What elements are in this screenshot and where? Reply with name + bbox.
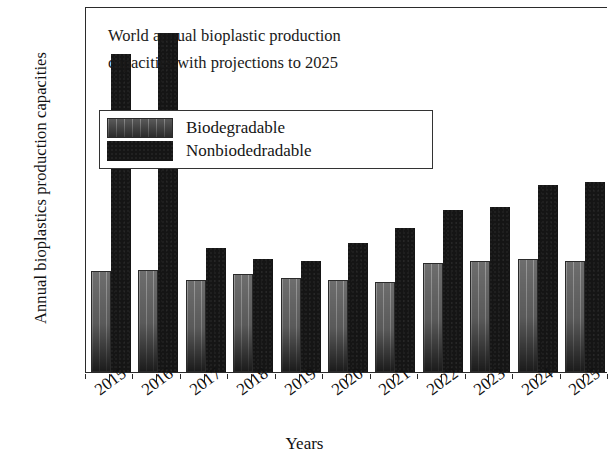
x-tick-minor — [85, 374, 86, 379]
legend-item-nonbiodegradable[interactable]: Nonbiodedradable — [107, 139, 428, 162]
x-tick-minor — [370, 374, 371, 379]
y-tick-minor — [85, 135, 86, 136]
bar-nonbiodegradable-2020 — [348, 243, 368, 372]
bar-biodegradable-2019 — [281, 278, 301, 372]
bar-nonbiodegradable-2024 — [538, 185, 558, 372]
legend-swatch-nonbiodegradable — [107, 141, 173, 161]
bar-nonbiodegradable-2023 — [490, 207, 510, 372]
y-tick-major — [85, 162, 86, 163]
bar-biodegradable-2015 — [91, 271, 111, 372]
y-tick-minor — [85, 188, 86, 189]
chart-title: World annual bioplastic production capac… — [108, 22, 438, 76]
y-tick-major — [85, 109, 86, 110]
x-tick-minor — [465, 374, 466, 379]
bar-nonbiodegradable-2022 — [443, 210, 463, 372]
bar-biodegradable-2020 — [328, 280, 348, 372]
legend-label-nonbiodegradable: Nonbiodedradable — [186, 142, 312, 159]
bar-biodegradable-2021 — [375, 282, 395, 372]
bar-nonbiodegradable-2017 — [206, 248, 226, 372]
x-axis-title: Years — [0, 434, 609, 454]
y-tick-major — [85, 215, 86, 216]
bar-biodegradable-2016 — [138, 270, 158, 372]
x-tick-minor — [322, 374, 323, 379]
chart-title-line-1: World annual bioplastic production — [108, 22, 438, 49]
bar-biodegradable-2018 — [233, 274, 253, 372]
x-tick-minor — [227, 374, 228, 379]
bar-nonbiodegradable-2016 — [158, 33, 178, 372]
chart-figure: Annual bioplastics production capacities… — [0, 0, 609, 462]
bar-biodegradable-2025 — [565, 261, 585, 372]
bar-nonbiodegradable-2019 — [301, 261, 321, 372]
x-tick-minor — [180, 374, 181, 379]
legend-label-biodegradable: Biodegradable — [186, 119, 285, 136]
bar-biodegradable-2024 — [518, 259, 538, 373]
y-tick-minor — [85, 347, 86, 348]
bar-nonbiodegradable-2015 — [111, 54, 131, 372]
legend-swatch-biodegradable — [107, 118, 173, 138]
x-tick-minor — [512, 374, 513, 379]
x-tick-minor — [607, 374, 608, 379]
y-tick-minor — [85, 241, 86, 242]
y-tick-minor — [85, 29, 86, 30]
bar-nonbiodegradable-2025 — [585, 182, 605, 372]
y-axis-title: Annual bioplastics production capacities — [31, 0, 51, 383]
bar-nonbiodegradable-2018 — [253, 259, 273, 373]
x-tick-minor — [132, 374, 133, 379]
bar-biodegradable-2023 — [470, 261, 490, 372]
chart-legend: Biodegradable Nonbiodedradable — [99, 110, 433, 169]
x-tick-minor — [560, 374, 561, 379]
bar-biodegradable-2022 — [423, 263, 443, 372]
legend-item-biodegradable[interactable]: Biodegradable — [107, 116, 428, 139]
y-tick-minor — [85, 294, 86, 295]
bar-biodegradable-2017 — [186, 280, 206, 372]
x-tick-minor — [275, 374, 276, 379]
y-tick-major — [85, 268, 86, 269]
y-tick-major — [85, 56, 86, 57]
chart-title-line-2: capacities with projections to 2025 — [108, 49, 438, 76]
bar-nonbiodegradable-2021 — [395, 228, 415, 372]
x-tick-minor — [417, 374, 418, 379]
y-tick-minor — [85, 82, 86, 83]
y-tick-major — [85, 321, 86, 322]
